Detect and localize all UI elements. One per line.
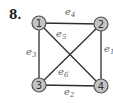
edge-label-e1: e1	[104, 43, 113, 56]
node-2: 2	[94, 17, 108, 31]
edge-label-e5: e5	[56, 28, 67, 41]
node-4: 4	[94, 79, 108, 93]
graph-diagram: e1e2e3e4e5e6 1234	[0, 0, 113, 103]
edges	[39, 23, 101, 86]
node-label: 2	[98, 19, 104, 30]
node-label: 3	[36, 80, 42, 91]
edge-e4	[39, 23, 101, 24]
edge-e2	[39, 85, 101, 86]
node-1: 1	[32, 16, 46, 30]
edge-label-e3: e3	[26, 46, 37, 59]
edge-label-e4: e4	[65, 6, 75, 19]
node-3: 3	[32, 78, 46, 92]
edge-label-e6: e6	[58, 66, 69, 79]
node-label: 1	[36, 18, 42, 29]
node-label: 4	[98, 81, 104, 92]
edge-label-e2: e2	[64, 86, 75, 99]
